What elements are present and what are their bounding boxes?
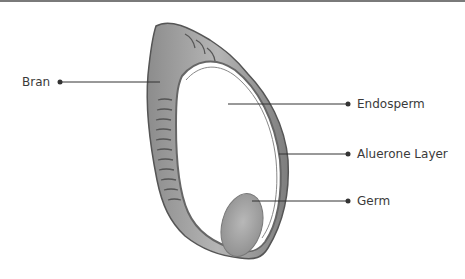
label-endosperm: Endosperm bbox=[357, 97, 425, 111]
kernel-diagram bbox=[0, 0, 465, 279]
label-aleurone-layer: Aluerone Layer bbox=[357, 147, 448, 161]
label-germ: Germ bbox=[357, 194, 390, 208]
label-bran: Bran bbox=[22, 75, 50, 89]
